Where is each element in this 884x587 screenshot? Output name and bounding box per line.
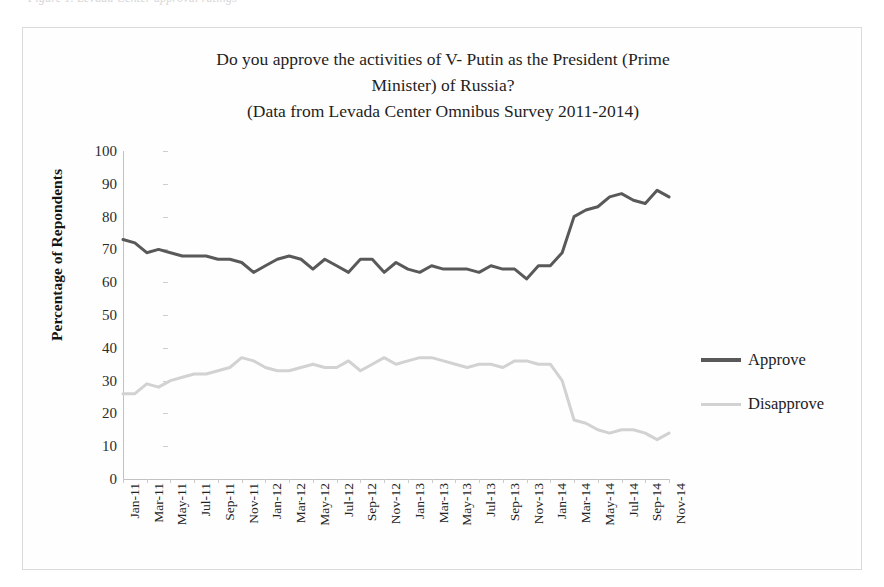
x-tick-label: May-12 xyxy=(318,483,332,526)
x-tick-label: Mar-13 xyxy=(437,483,451,523)
x-tick-label: May-11 xyxy=(175,483,189,525)
x-tick-label: Jan-11 xyxy=(128,483,142,519)
x-tick-mark xyxy=(645,479,646,483)
x-tick-label: Jul-13 xyxy=(484,483,498,517)
x-axis-line xyxy=(123,479,670,480)
x-tick-mark xyxy=(550,479,551,483)
y-tick-label: 80 xyxy=(71,209,117,224)
x-tick-label: Mar-14 xyxy=(579,483,593,523)
y-axis-tick-labels: 0102030405060708090100 xyxy=(67,151,117,479)
x-tick-mark xyxy=(574,479,575,483)
x-tick-mark xyxy=(265,479,266,483)
x-tick-mark xyxy=(479,479,480,483)
legend-label-disapprove: Disapprove xyxy=(748,396,824,412)
legend-label-approve: Approve xyxy=(748,352,806,368)
x-tick-mark xyxy=(170,479,171,483)
x-tick-label: Jul-14 xyxy=(627,483,641,517)
x-tick-mark xyxy=(242,479,243,483)
x-tick-label: Sep-11 xyxy=(223,483,237,521)
series-lines xyxy=(123,151,669,479)
x-tick-label: May-13 xyxy=(460,483,474,526)
x-tick-label: Mar-11 xyxy=(152,483,166,523)
y-tick-label: 30 xyxy=(71,373,117,388)
x-tick-label: Sep-12 xyxy=(365,483,379,521)
series-line-disapprove xyxy=(123,358,669,440)
x-tick-label: Jan-14 xyxy=(555,483,569,519)
series-line-approve xyxy=(123,190,669,279)
x-tick-label: Jul-12 xyxy=(342,483,356,517)
y-tick-label: 40 xyxy=(71,340,117,355)
x-tick-label: Sep-13 xyxy=(508,483,522,521)
x-tick-label: Jul-11 xyxy=(199,483,213,516)
legend-swatch-approve xyxy=(701,358,741,362)
x-tick-label: Jan-13 xyxy=(413,483,427,519)
x-tick-mark xyxy=(527,479,528,483)
x-tick-label: Nov-11 xyxy=(247,483,261,524)
x-tick-mark xyxy=(289,479,290,483)
x-tick-label: Nov-14 xyxy=(674,483,688,524)
y-tick-label: 60 xyxy=(71,275,117,290)
x-tick-mark xyxy=(455,479,456,483)
y-tick-label: 0 xyxy=(71,472,117,487)
x-tick-mark xyxy=(147,479,148,483)
figure-frame: Do you approve the activities of V- Puti… xyxy=(22,27,862,570)
y-tick-label: 20 xyxy=(71,406,117,421)
x-tick-mark xyxy=(598,479,599,483)
plot-area xyxy=(123,151,669,479)
y-tick-label: 90 xyxy=(71,176,117,191)
x-tick-label: Jan-12 xyxy=(270,483,284,519)
legend-item-approve[interactable]: Approve xyxy=(701,338,861,382)
y-axis-title: Percentage of Repondents xyxy=(48,125,66,385)
x-tick-label: Mar-12 xyxy=(294,483,308,523)
x-tick-mark xyxy=(622,479,623,483)
x-tick-mark xyxy=(432,479,433,483)
x-tick-mark xyxy=(123,479,124,483)
x-tick-mark xyxy=(503,479,504,483)
x-tick-label: Nov-13 xyxy=(532,483,546,524)
chart-legend: Approve Disapprove xyxy=(701,338,861,426)
x-tick-mark xyxy=(337,479,338,483)
y-tick-label: 50 xyxy=(71,308,117,323)
x-tick-label: Nov-12 xyxy=(389,483,403,524)
x-tick-mark xyxy=(313,479,314,483)
legend-item-disapprove[interactable]: Disapprove xyxy=(701,382,861,426)
plot-wrapper: Percentage of Repondents 010203040506070… xyxy=(23,28,863,571)
y-tick-label: 10 xyxy=(71,439,117,454)
x-tick-mark xyxy=(669,479,670,483)
x-tick-mark xyxy=(408,479,409,483)
legend-swatch-disapprove xyxy=(701,403,741,406)
top-clipped-caption: Figure 1. Levada Center approval ratings xyxy=(28,0,237,6)
x-tick-mark xyxy=(360,479,361,483)
y-tick-label: 70 xyxy=(71,242,117,257)
x-tick-label: May-14 xyxy=(603,483,617,526)
x-tick-mark xyxy=(384,479,385,483)
x-tick-mark xyxy=(194,479,195,483)
y-tick-label: 100 xyxy=(71,144,117,159)
x-tick-label: Sep-14 xyxy=(650,483,664,521)
x-tick-mark xyxy=(218,479,219,483)
x-axis-tick-labels: Jan-11Mar-11May-11Jul-11Sep-11Nov-11Jan-… xyxy=(123,483,670,573)
